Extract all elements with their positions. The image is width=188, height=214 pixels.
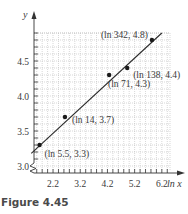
chart: 2.23.24.25.26.2 3.03.54.04.5 (ln 5.5, 3.… <box>0 0 188 195</box>
x-axis-ticks: 2.23.24.25.26.2 <box>37 169 168 189</box>
y-tick-label: 4.0 <box>17 92 29 102</box>
x-axis-label: ln x <box>167 178 182 189</box>
data-point <box>125 66 129 70</box>
data-point-label: (ln 14, 3.7) <box>72 115 114 126</box>
data-point <box>150 38 154 42</box>
data-point-label: (ln 342, 4.8) <box>101 30 148 41</box>
figure-caption: Figure 4.45 <box>1 196 69 208</box>
x-tick-label: 2.2 <box>47 179 59 189</box>
data-point-label: (ln 138, 4.4) <box>133 70 180 81</box>
data-point <box>63 115 67 119</box>
data-point <box>107 73 111 77</box>
y-tick-label: 3.5 <box>17 127 29 137</box>
x-tick-label: 4.2 <box>102 179 114 189</box>
y-axis-label: y <box>22 9 28 20</box>
data-points: (ln 5.5, 3.3)(ln 14, 3.7)(ln 71, 4.3)(ln… <box>37 30 180 160</box>
x-tick-label: 5.2 <box>129 179 141 189</box>
y-tick-label: 3.0 <box>17 162 29 172</box>
x-tick-label: 3.2 <box>74 179 86 189</box>
data-point-label: (ln 5.5, 3.3) <box>45 149 90 160</box>
data-point-label: (ln 71, 4.3) <box>108 79 150 90</box>
y-tick-label: 4.5 <box>17 57 29 67</box>
data-point <box>37 143 41 147</box>
